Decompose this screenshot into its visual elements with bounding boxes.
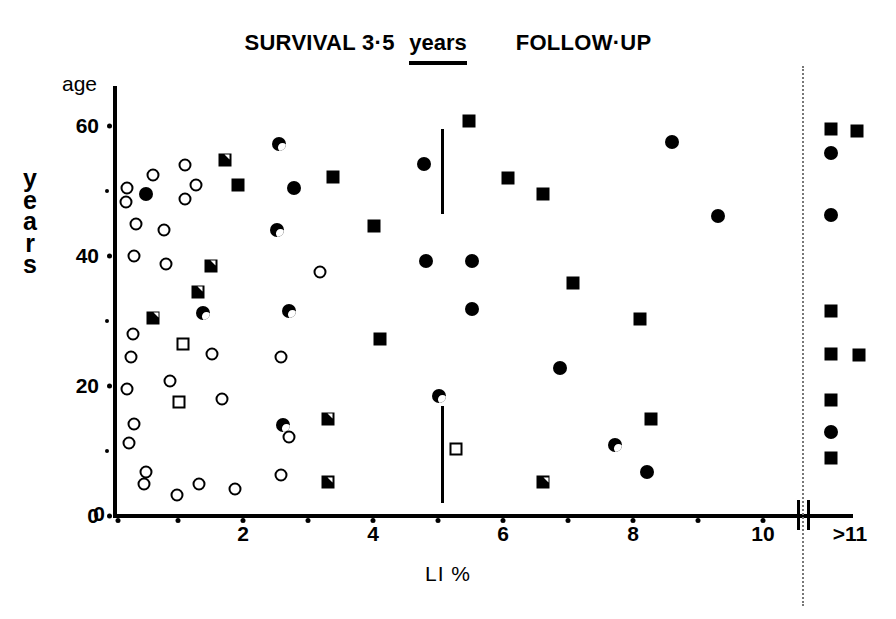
data-point-circle-half: [432, 389, 446, 403]
title-survival-segment: SURVIVAL 3·5: [244, 30, 394, 56]
data-point-circle-open: [121, 383, 134, 396]
data-point-circle-open: [216, 393, 229, 406]
data-point-circle-filled: [417, 157, 431, 171]
data-point-circle-filled: [665, 135, 679, 149]
data-point-circle-open: [178, 159, 191, 172]
annotation-vline-1: [441, 406, 444, 504]
title-years-text: years: [409, 30, 467, 55]
x-tick-dot-minor-5: [436, 518, 441, 523]
data-point-square-filled: [567, 277, 580, 290]
y-tick-dot-60: [107, 124, 112, 129]
title-underline: [409, 61, 467, 65]
data-point-circle-open: [157, 224, 170, 237]
data-point-circle-open: [274, 350, 287, 363]
data-point-square-half: [204, 259, 217, 272]
data-point-circle-filled: [824, 425, 838, 439]
x-tick-dot-10: [761, 518, 766, 523]
data-point-square-open: [173, 396, 186, 409]
x-tick-dot-6: [501, 518, 506, 523]
data-point-circle-half: [608, 438, 622, 452]
data-point-square-filled: [825, 305, 838, 318]
x-tick-dot-0: [116, 518, 121, 523]
x-tick-label-0: 0: [93, 502, 105, 526]
x-tick-label-gt11: >11: [833, 522, 867, 546]
y-axis-side-label-char-4: s: [16, 254, 44, 276]
data-point-circle-open: [274, 469, 287, 482]
data-point-circle-open: [120, 196, 133, 209]
y-tick-label-60: 60: [55, 114, 99, 138]
x-tick-label-10: 10: [751, 522, 774, 546]
data-point-circle-filled: [711, 209, 725, 223]
chart-title: SURVIVAL 3·5 years FOLLOW·UP: [0, 30, 896, 56]
data-point-square-filled: [645, 412, 658, 425]
data-point-square-half: [147, 311, 160, 324]
data-point-square-half: [537, 476, 550, 489]
data-point-circle-filled: [465, 302, 479, 316]
data-point-circle-open: [127, 417, 140, 430]
data-point-circle-filled: [824, 146, 838, 160]
x-axis-label: LI %: [0, 562, 896, 586]
data-point-square-half: [321, 476, 334, 489]
x-tick-label-4: 4: [367, 522, 379, 546]
data-point-circle-open: [125, 350, 138, 363]
data-point-circle-half: [270, 223, 284, 237]
data-point-square-half: [218, 153, 231, 166]
data-point-square-filled: [851, 124, 864, 137]
data-point-square-filled: [633, 313, 646, 326]
data-point-circle-filled: [287, 181, 301, 195]
x-tick-dot-4: [371, 518, 376, 523]
data-point-square-half: [191, 285, 204, 298]
data-point-circle-filled: [640, 465, 654, 479]
data-point-square-filled: [326, 170, 339, 183]
data-point-square-filled: [853, 348, 866, 361]
data-point-circle-open: [313, 266, 326, 279]
x-axis-line: [113, 514, 853, 518]
x-tick-label-8: 8: [627, 522, 639, 546]
y-axis-line: [113, 86, 117, 518]
y-tick-dot-minor-50: [105, 189, 109, 193]
y-axis-top-label: age: [62, 72, 97, 96]
data-point-circle-half: [272, 137, 286, 151]
x-tick-dot-minor-3: [306, 518, 311, 523]
data-point-square-filled: [502, 172, 515, 185]
data-point-circle-open: [190, 178, 203, 191]
figure-root: SURVIVAL 3·5 years FOLLOW·UP age years L…: [0, 0, 896, 619]
x-tick-dot-minor-9: [696, 518, 701, 523]
data-point-square-filled: [825, 394, 838, 407]
data-point-square-filled: [825, 123, 838, 136]
title-years-segment: years: [409, 30, 467, 56]
title-followup-segment: FOLLOW·UP: [516, 30, 652, 56]
data-point-circle-open: [126, 328, 139, 341]
y-tick-dot-0: [107, 514, 112, 519]
x-tick-dot-minor-7: [566, 518, 571, 523]
data-point-circle-filled: [465, 254, 479, 268]
data-point-circle-open: [170, 488, 183, 501]
data-point-square-filled: [825, 347, 838, 360]
data-point-circle-open: [178, 192, 191, 205]
data-point-circle-filled: [824, 208, 838, 222]
data-point-square-filled: [463, 115, 476, 128]
y-tick-label-40: 40: [55, 244, 99, 268]
data-point-circle-half: [196, 306, 210, 320]
data-point-square-filled: [231, 178, 244, 191]
data-point-square-open: [450, 443, 463, 456]
axis-break-mark-left: [797, 500, 800, 530]
data-point-circle-open: [147, 168, 160, 181]
axis-break-separator: [802, 66, 804, 606]
x-tick-label-6: 6: [497, 522, 509, 546]
data-point-circle-open: [282, 430, 295, 443]
data-point-square-filled: [825, 451, 838, 464]
x-tick-label-2: 2: [237, 522, 249, 546]
data-point-circle-filled: [419, 254, 433, 268]
data-point-circle-open: [127, 250, 140, 263]
data-point-circle-open: [160, 257, 173, 270]
x-tick-dot-8: [631, 518, 636, 523]
axis-break-mark-right: [807, 500, 810, 530]
y-tick-dot-minor-10: [105, 449, 109, 453]
annotation-vline-0: [441, 129, 444, 214]
data-point-circle-open: [121, 181, 134, 194]
y-tick-dot-minor-30: [105, 319, 109, 323]
data-point-circle-open: [192, 477, 205, 490]
y-axis-side-label: years: [16, 168, 44, 276]
data-point-circle-filled: [553, 361, 567, 375]
